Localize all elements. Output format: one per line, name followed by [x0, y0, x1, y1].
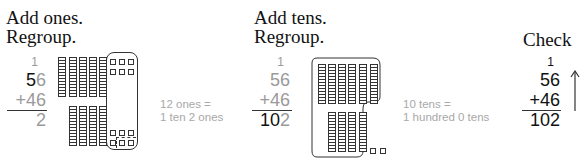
ten-rod [69, 57, 77, 97]
step2-heading-line1: Add tens. [254, 8, 327, 28]
step1-note-line2: 1 ten 2 ones [160, 111, 223, 124]
check-sum: 102 [522, 110, 560, 130]
step2-addend2: +46 [252, 90, 290, 110]
ten-rod [58, 57, 66, 97]
step1-addend2-ones: 6 [36, 90, 46, 110]
step2-sum: 102 [252, 110, 290, 130]
step1-addend1: 56 [20, 70, 46, 90]
check-addend2: +46 [520, 90, 560, 110]
ten-rod [370, 64, 378, 104]
up-arrow-icon [570, 70, 580, 112]
step1-sum: 2 [20, 110, 46, 130]
one-cube [128, 130, 134, 136]
ten-rod [359, 112, 367, 152]
step1-plus-sign: + [15, 90, 26, 110]
ten-rod [328, 112, 336, 152]
step2-note-line1: 10 tens = [403, 98, 451, 111]
ten-rod [328, 64, 336, 104]
step1-addend2-tens: 4 [26, 90, 36, 110]
step2-carry: 1 [270, 55, 284, 69]
one-cube [128, 59, 134, 65]
one-cube [119, 59, 125, 65]
check-heading: Check [523, 30, 572, 50]
check-carry: 1 [540, 55, 554, 69]
one-cube [110, 69, 116, 75]
one-cube [119, 69, 125, 75]
ten-rod [318, 64, 326, 104]
ten-rod [359, 64, 367, 104]
step2-addend1: 56 [262, 70, 290, 90]
ten-rod [79, 106, 87, 146]
one-cube [370, 148, 376, 154]
step1-addend1-tens: 5 [26, 70, 36, 90]
ten-rod [79, 57, 87, 97]
step2-note-line2: 1 hundred 0 tens [403, 111, 489, 124]
ten-rod [89, 106, 97, 146]
check-addend2-value: 46 [540, 90, 560, 110]
step1-addend1-ones: 6 [36, 70, 46, 90]
step2-sum-hundreds-tens: 10 [260, 110, 280, 130]
step2-addend1-value: 56 [270, 70, 290, 90]
ten-rod [338, 112, 346, 152]
step1-heading-line2: Regroup. [6, 27, 76, 47]
step1-carry: 1 [24, 55, 38, 69]
ten-rod [348, 64, 356, 104]
step1-addend2: +46 [6, 90, 46, 110]
step2-plus-sign: + [259, 90, 270, 110]
step1-note-line1: 12 ones = [160, 98, 211, 111]
ten-rod [89, 57, 97, 97]
one-cube [119, 130, 125, 136]
ten-rod [348, 112, 356, 152]
check-plus-sign: + [529, 90, 540, 110]
one-cube [380, 148, 386, 154]
ten-rod [338, 64, 346, 104]
step2-heading-line2: Regroup. [254, 27, 324, 47]
ten-rod [69, 106, 77, 146]
one-cube [128, 69, 134, 75]
check-addend1: 56 [530, 70, 560, 90]
one-cube [110, 130, 116, 136]
step1-leftover-group [116, 137, 136, 148]
step2-sum-ones: 2 [280, 110, 290, 130]
one-cube [110, 59, 116, 65]
step1-heading-line1: Add ones. [6, 8, 83, 28]
step2-addend2-value: 46 [270, 90, 290, 110]
